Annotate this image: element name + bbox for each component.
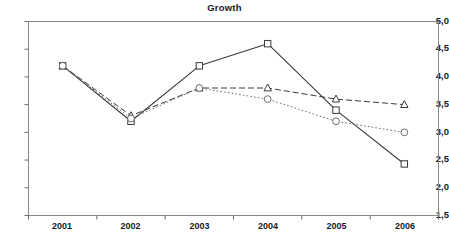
series-line-triangle bbox=[63, 66, 405, 116]
data-point-marker-square bbox=[128, 118, 134, 124]
series-line-circle bbox=[63, 66, 405, 133]
data-point-marker-circle bbox=[264, 96, 271, 103]
axis-ticks bbox=[25, 22, 439, 220]
data-point-marker-circle bbox=[196, 85, 203, 92]
data-point-marker-circle bbox=[333, 118, 340, 125]
data-point-marker-square bbox=[401, 161, 407, 167]
data-point-marker-triangle bbox=[332, 95, 339, 102]
data-point-marker-square bbox=[196, 63, 202, 69]
data-point-marker-circle bbox=[59, 62, 66, 69]
data-point-marker-circle bbox=[401, 129, 408, 136]
data-point-marker-square bbox=[264, 40, 270, 46]
data-series-group bbox=[59, 40, 408, 167]
data-point-marker-square bbox=[333, 107, 339, 113]
growth-line-chart: Growth 5,0 4,5 4,0 3,5 3,0 2,5 2,0 1,5 2… bbox=[0, 0, 449, 243]
data-point-marker-triangle bbox=[196, 84, 203, 91]
data-point-marker-square bbox=[59, 63, 65, 69]
data-point-marker-triangle bbox=[59, 62, 66, 69]
data-point-marker-circle bbox=[128, 115, 135, 122]
data-point-marker-triangle bbox=[401, 101, 408, 108]
plot-canvas bbox=[0, 0, 449, 243]
data-point-marker-triangle bbox=[264, 84, 271, 91]
data-point-marker-triangle bbox=[127, 112, 134, 119]
series-line-square bbox=[63, 44, 405, 164]
axis-frame bbox=[29, 22, 439, 216]
